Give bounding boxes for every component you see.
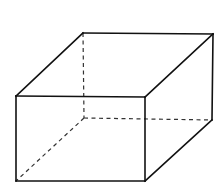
hidden-edge-back-bottom-left-to-front-bottom-left <box>16 118 84 181</box>
visible-edge-back-top-right-to-front-top-right <box>145 34 213 97</box>
visible-edge-back-top-right-to-back-bottom-right <box>212 34 213 120</box>
hidden-edge-back-bottom-left-to-back-bottom-right <box>84 118 212 120</box>
box-diagram <box>0 0 217 183</box>
visible-edges <box>16 33 213 181</box>
visible-edge-back-top-left-to-back-top-right <box>83 33 213 34</box>
hidden-edges <box>16 33 212 181</box>
visible-edge-front-top-left-to-back-top-left <box>16 33 83 96</box>
hidden-edge-back-top-left-to-back-bottom-left <box>83 33 84 118</box>
visible-edge-back-bottom-right-to-front-bottom-right <box>145 120 212 181</box>
visible-edge-front-top-left-to-front-top-right <box>16 96 145 97</box>
